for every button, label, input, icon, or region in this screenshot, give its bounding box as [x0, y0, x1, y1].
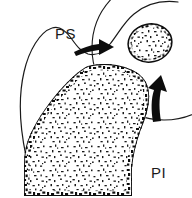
figure-root: PS PI — [0, 0, 192, 198]
label-ps: PS — [55, 26, 76, 41]
label-pi: PI — [151, 165, 166, 180]
